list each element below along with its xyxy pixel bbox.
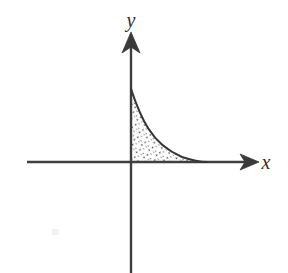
- coordinate-plot: x y: [0, 0, 288, 273]
- x-axis-label: x: [261, 151, 271, 173]
- figure-container: x y: [0, 0, 288, 273]
- shaded-region: [128, 86, 212, 166]
- stipple-fill: [128, 86, 212, 166]
- scan-artifact-speck: [52, 229, 59, 235]
- y-axis-label: y: [125, 9, 136, 32]
